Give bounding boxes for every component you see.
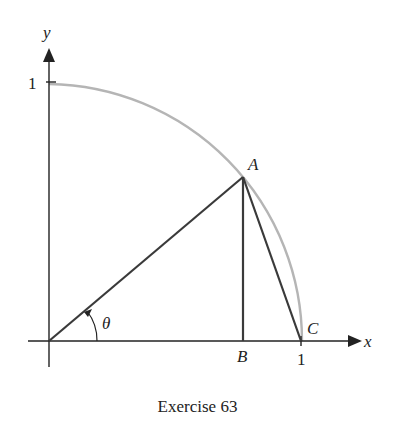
x-tick-label: 1 — [297, 350, 306, 369]
x-axis-label: x — [363, 332, 372, 351]
x-axis-arrow-icon — [348, 335, 362, 347]
segment-OA — [49, 177, 243, 341]
angle-theta-label: θ — [102, 314, 110, 333]
y-axis-label: y — [41, 23, 51, 42]
unit-circle-diagram: y 1 x 1 A B C θ — [0, 0, 395, 426]
figure-caption: Exercise 63 — [0, 397, 395, 417]
segment-AC — [243, 177, 301, 341]
quarter-circle-arc — [49, 84, 302, 341]
point-B-label: B — [237, 347, 248, 366]
y-axis-arrow-icon — [43, 48, 55, 62]
y-tick-label: 1 — [28, 74, 37, 93]
point-C-label: C — [307, 319, 319, 338]
point-A-label: A — [247, 155, 259, 174]
